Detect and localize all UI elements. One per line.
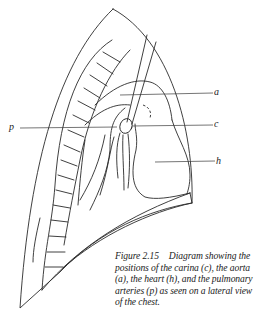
caption-line-1: Figure 2.15Diagram showing the <box>115 250 267 262</box>
figure-number: Figure 2.15 <box>115 250 159 261</box>
aortic-arch-inner <box>85 105 130 125</box>
leader-line-p <box>20 127 117 128</box>
lateral-chest-diagram: a c h p Figure 2.15Diagram showing the p… <box>0 0 267 319</box>
label-a-aorta: a <box>214 87 219 97</box>
caption-line-3: (a), the heart (h), and the pulmonary <box>115 273 267 285</box>
caption-text-1: Diagram showing the <box>169 250 250 261</box>
leader-line-c <box>132 125 213 126</box>
pulmonary-arteries <box>78 108 130 210</box>
posterior-wall-outer-curve <box>42 40 112 290</box>
posterior-mark <box>33 218 40 262</box>
caption-line-2: positions of the carina (c), the aorta <box>115 262 267 274</box>
leader-line-h <box>155 161 215 162</box>
aortic-arch-outer <box>95 81 172 120</box>
caption-line-5: of the chest. <box>115 296 267 308</box>
figure-caption: Figure 2.15Diagram showing the positions… <box>115 250 267 308</box>
label-h-heart: h <box>216 156 221 166</box>
carina <box>118 117 134 135</box>
aortic-arch-hidden <box>143 105 151 118</box>
label-c-carina: c <box>214 119 218 129</box>
heart-outline <box>133 120 190 198</box>
trachea-posterior-wall <box>127 35 147 122</box>
label-p-pulmonary-arteries: p <box>9 122 14 132</box>
caption-line-4: arteries (p) as seen on a lateral view <box>115 285 267 297</box>
